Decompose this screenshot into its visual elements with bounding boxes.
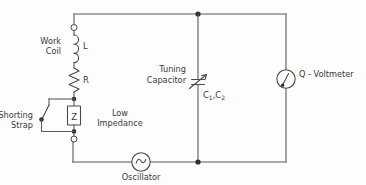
junction-dot-bottom-capacitor [195,159,200,164]
low-impedance-label-line1: Low [112,108,128,118]
resistor-zigzag-icon [69,68,79,92]
work-coil-label-line2: Coil [46,46,61,56]
shorting-strap-label-line2: Strap [11,120,33,130]
low-impedance-label-line2: Impedance [97,118,143,128]
terminal-top-open-circle [71,25,77,31]
q-voltmeter-label: Q - Voltmeter [299,69,354,79]
tuning-capacitor-label-line1: Tuning [158,64,186,74]
switch-open-icon [42,105,49,119]
resistor-label: R [83,75,89,85]
sine-source-icon [132,153,150,171]
capacitor-subscript-2: 2 [221,94,225,101]
capacitor-values-label: C1,C2 [203,90,225,101]
inductor-coil-icon [74,35,79,63]
inductor-label: L [83,41,88,51]
work-coil-label-line1: Work [40,36,61,46]
circuit-schematic: Z Q - Voltmeter Oscillator [0,0,366,185]
tuning-capacitor-label-line2: Capacitor [147,75,187,85]
circuit-diagram-canvas: Z Q - Voltmeter Oscillator [0,0,366,185]
impedance-box-label: Z [71,112,77,122]
terminal-bottom-open-circle [71,136,77,142]
meter-needle-icon [277,70,295,88]
capacitor-comma-c: ,C [213,90,222,100]
shorting-strap-label-line1: Shorting [0,110,33,120]
oscillator-label: Oscillator [122,172,161,182]
